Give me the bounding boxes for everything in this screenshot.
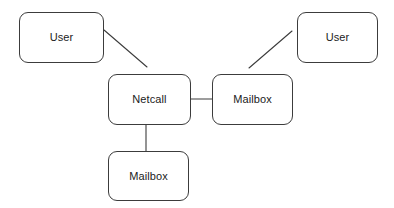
node-label: User (50, 32, 74, 43)
node-mailbox-bottom[interactable]: Mailbox (108, 151, 189, 201)
node-netcall[interactable]: Netcall (108, 74, 191, 125)
node-label: Netcall (132, 94, 166, 105)
node-user-left[interactable]: User (19, 12, 104, 63)
node-label: Mailbox (129, 171, 168, 182)
edge-user-left-to-netcall (104, 30, 147, 67)
node-label: User (326, 32, 350, 43)
node-user-right[interactable]: User (297, 12, 378, 63)
node-mailbox-right[interactable]: Mailbox (212, 74, 293, 125)
diagram-canvas: User User Netcall Mailbox Mailbox (0, 0, 394, 208)
node-label: Mailbox (233, 94, 272, 105)
edge-mailbox-right-to-user-right (249, 31, 292, 68)
